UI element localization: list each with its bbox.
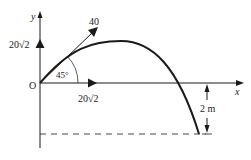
projectile-diagram: y x O 20√2 40 45° 20√2 2 m <box>0 0 251 160</box>
vertical-component-label: 20√2 <box>9 39 30 50</box>
x-axis <box>40 80 244 86</box>
angle-label: 45° <box>56 70 69 80</box>
dimension-down-arrow-icon <box>205 125 210 133</box>
horizontal-component-label: 20√2 <box>78 93 99 104</box>
angle-arc <box>67 56 78 83</box>
drop-height-label: 2 m <box>200 103 216 114</box>
origin-label: O <box>29 80 36 91</box>
horizontal-component-arrow-icon <box>88 79 97 88</box>
dimension-up-arrow-icon <box>205 84 210 92</box>
trajectory-curve <box>40 41 199 134</box>
velocity-magnitude-label: 40 <box>89 16 99 27</box>
y-axis-arrow-icon <box>38 11 43 18</box>
y-axis-label: y <box>30 11 36 22</box>
vertical-component-arrow-icon <box>36 39 45 48</box>
x-axis-label: x <box>234 86 240 97</box>
